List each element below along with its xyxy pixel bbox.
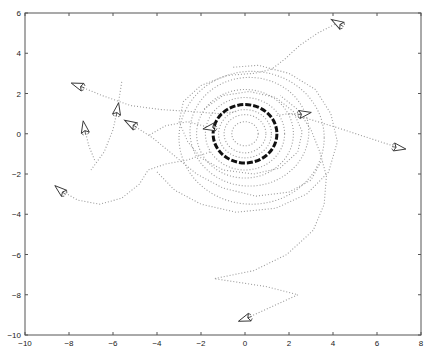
- agent-arrow-icon: [112, 102, 122, 117]
- x-tick-label: −10: [18, 339, 32, 348]
- agent-arrow-icon: [237, 313, 253, 325]
- center-ring-dotted: [197, 89, 294, 178]
- agent-arrow-icon: [52, 183, 68, 198]
- agent-arrow-icon: [79, 120, 89, 135]
- y-tick-label: 4: [17, 49, 22, 58]
- trajectory-path: [289, 114, 399, 148]
- x-tick-label: −2: [196, 339, 206, 348]
- agent-marker-layer: [52, 16, 406, 325]
- y-tick-label: −4: [12, 210, 22, 219]
- center-ring-dotted: [232, 122, 258, 146]
- agent-arrow-icon: [123, 117, 139, 131]
- y-tick-label: 0: [17, 130, 22, 139]
- axes: −10−8−6−4−202468−10−8−6−4−20246: [7, 9, 423, 348]
- x-tick-label: 2: [287, 339, 292, 348]
- center-ring-dotted: [224, 115, 266, 153]
- trajectory-path: [91, 110, 117, 170]
- y-tick-label: 6: [17, 9, 22, 18]
- trajectory-path: [214, 96, 326, 319]
- agent-arrow-icon: [70, 79, 86, 91]
- x-tick-label: −4: [152, 339, 162, 348]
- center-ring-dense: [213, 105, 277, 163]
- x-tick-label: 6: [375, 339, 380, 348]
- x-tick-label: −8: [64, 339, 74, 348]
- agent-arrow-icon: [297, 108, 312, 118]
- agent-arrow-icon: [329, 16, 345, 30]
- y-tick-label: −6: [12, 251, 22, 260]
- x-tick-label: 4: [331, 339, 336, 348]
- x-tick-label: 0: [243, 339, 248, 348]
- trajectory-path: [84, 128, 95, 162]
- center-ring-dotted: [205, 98, 284, 170]
- center-ring-dotted: [219, 110, 272, 158]
- x-tick-label: 8: [419, 339, 424, 348]
- center-ring-dotted: [190, 77, 309, 186]
- agent-arrow-icon: [391, 143, 406, 153]
- y-tick-label: 2: [17, 90, 22, 99]
- plot-frame: [25, 13, 421, 335]
- y-tick-label: −2: [12, 170, 22, 179]
- y-tick-label: −8: [12, 291, 22, 300]
- trajectory-path: [157, 65, 337, 212]
- y-tick-label: −10: [7, 331, 21, 340]
- x-tick-label: −6: [108, 339, 118, 348]
- trajectory-layer: [60, 23, 399, 319]
- chart-plot: −10−8−6−4−202468−10−8−6−4−20246: [0, 0, 432, 357]
